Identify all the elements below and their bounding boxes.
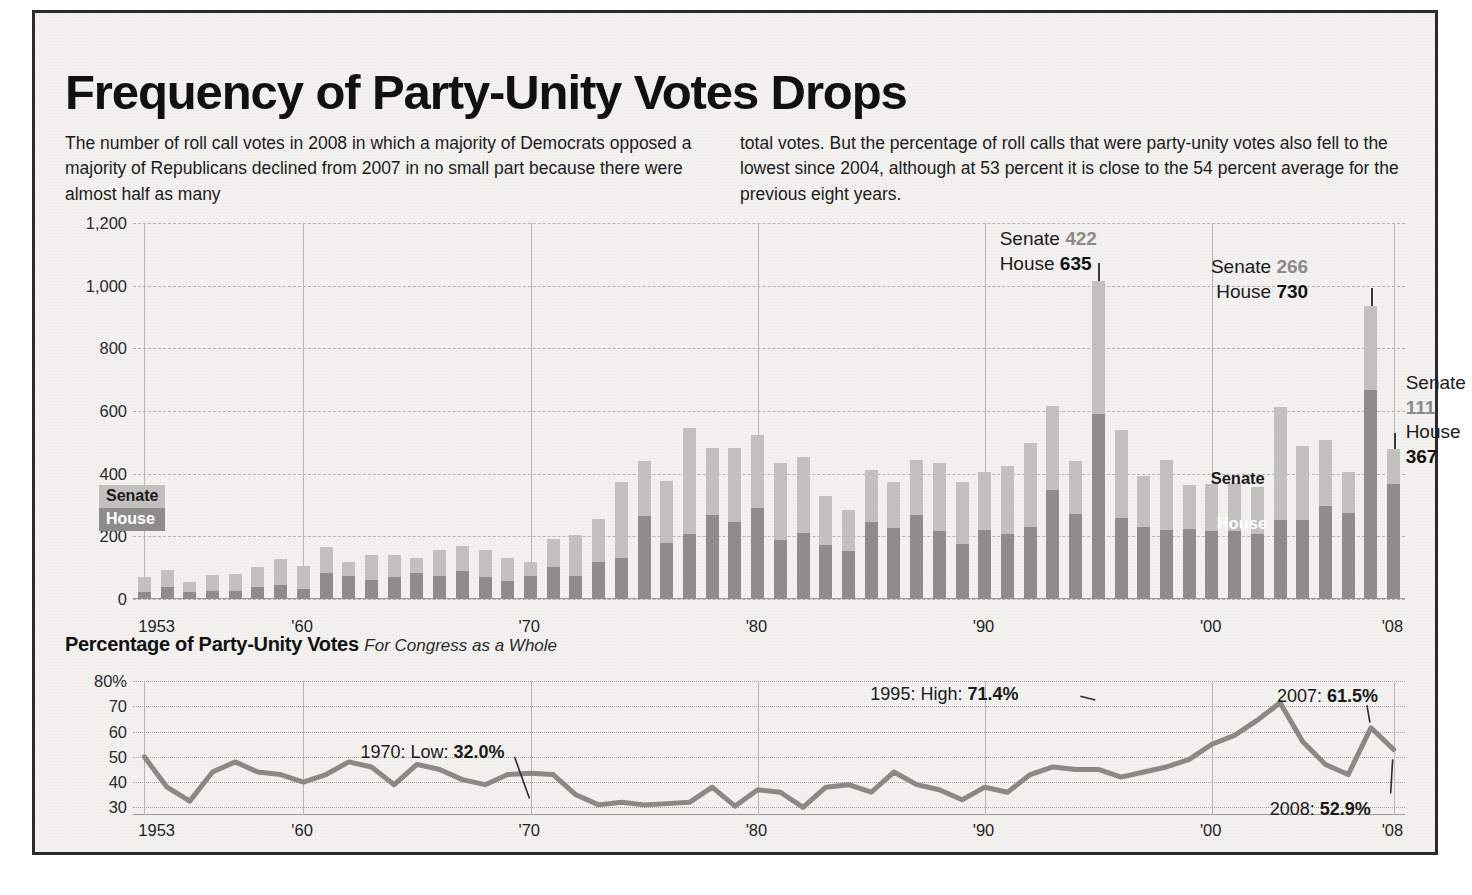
- bar-segment-senate: [479, 550, 492, 577]
- bar-column[interactable]: [501, 558, 514, 599]
- bar-segment-house: [274, 585, 287, 599]
- bar-y-axis-label: 600: [61, 402, 127, 421]
- line-y-axis-label: 60: [61, 723, 127, 742]
- bar-column[interactable]: [161, 570, 174, 599]
- bar-segment-senate: [638, 461, 651, 516]
- bar-segment-house: [865, 522, 878, 599]
- callout-senate-label: Senate: [1406, 371, 1466, 396]
- bar-x-axis-label: '80: [746, 617, 768, 636]
- bar-segment-house: [1296, 520, 1309, 599]
- bar-column[interactable]: [569, 535, 582, 599]
- bar-column[interactable]: [1069, 461, 1082, 599]
- bar-column[interactable]: [320, 547, 333, 599]
- bar-column[interactable]: [1183, 485, 1196, 599]
- bar-segment-senate: [1296, 446, 1309, 520]
- bar-segment-house: [547, 567, 560, 599]
- bar-column[interactable]: [365, 555, 378, 599]
- bar-segment-house: [592, 562, 605, 599]
- bar-segment-house: [887, 528, 900, 599]
- bar-segment-house: [1046, 490, 1059, 599]
- line-x-axis-label: '60: [291, 821, 313, 840]
- legend-swatch-senate: Senate: [99, 485, 165, 508]
- bar-column[interactable]: [183, 582, 196, 599]
- bar-segment-house: [819, 545, 832, 599]
- bar-column[interactable]: [524, 562, 537, 599]
- bar-segment-senate: [388, 555, 401, 578]
- bar-column[interactable]: [1342, 472, 1355, 599]
- bar-column[interactable]: [1274, 407, 1287, 599]
- bar-segment-senate: [1046, 406, 1059, 490]
- page-title: Frequency of Party-Unity Votes Drops: [65, 68, 907, 118]
- bar-segment-senate: [706, 448, 719, 515]
- bar-column[interactable]: [956, 482, 969, 600]
- bar-column[interactable]: [797, 457, 810, 599]
- bar-column[interactable]: [683, 428, 696, 599]
- callout-senate-value: 422: [1065, 228, 1097, 249]
- bar-column[interactable]: [842, 510, 855, 599]
- bar-segment-senate: [206, 575, 219, 591]
- bar-column[interactable]: [251, 567, 264, 599]
- bar-column[interactable]: [388, 555, 401, 599]
- bar-column[interactable]: [1160, 460, 1173, 599]
- callout-house-row: House 635: [1000, 252, 1097, 277]
- bar-column[interactable]: [1115, 430, 1128, 599]
- bar-column[interactable]: [1001, 466, 1014, 599]
- bar-column[interactable]: [887, 482, 900, 600]
- section-subtitle: Percentage of Party-Unity Votes For Cong…: [65, 633, 557, 656]
- bar-column[interactable]: [342, 562, 355, 599]
- bar-column[interactable]: [274, 559, 287, 599]
- bar-column[interactable]: [410, 558, 423, 599]
- bar-column[interactable]: [1364, 306, 1377, 599]
- bar-column[interactable]: [592, 519, 605, 599]
- bar-column[interactable]: [433, 550, 446, 599]
- bar-segment-house: [138, 592, 151, 599]
- bar-column[interactable]: [297, 566, 310, 599]
- bar-column[interactable]: [910, 460, 923, 599]
- bar-segment-house: [1001, 534, 1014, 599]
- callout-leader-line: [1394, 433, 1396, 449]
- bar-column[interactable]: [1251, 487, 1264, 599]
- bar-column[interactable]: [1205, 484, 1218, 599]
- bar-gridline: [133, 599, 1405, 600]
- bar-column[interactable]: [638, 461, 651, 599]
- bar-column[interactable]: [229, 574, 242, 599]
- bar-column[interactable]: [1046, 406, 1059, 599]
- bar-segment-house: [978, 530, 991, 599]
- bar-segment-senate: [1364, 306, 1377, 389]
- bar-column[interactable]: [819, 496, 832, 599]
- annotation-prefix: 1995: High:: [870, 684, 967, 704]
- bar-column[interactable]: [206, 575, 219, 599]
- bar-segment-senate: [456, 546, 469, 570]
- annotation-value: 71.4%: [967, 684, 1018, 704]
- bar-column[interactable]: [933, 463, 946, 599]
- bar-segment-house: [1274, 520, 1287, 599]
- bar-segment-senate: [910, 460, 923, 515]
- bar-column[interactable]: [1024, 443, 1037, 599]
- bar-column[interactable]: [774, 463, 787, 599]
- bar-segment-senate: [1115, 430, 1128, 517]
- bar-column[interactable]: [728, 448, 741, 599]
- bar-segment-senate: [774, 463, 787, 540]
- line-x-axis-label: '90: [973, 821, 995, 840]
- bar-column[interactable]: [138, 577, 151, 599]
- bar-column[interactable]: [1387, 449, 1400, 599]
- bar-column[interactable]: [1137, 476, 1150, 599]
- bar-column[interactable]: [865, 470, 878, 599]
- bar-column[interactable]: [1296, 446, 1309, 599]
- bar-segment-house: [1364, 390, 1377, 599]
- bar-column[interactable]: [1319, 440, 1332, 599]
- bar-column[interactable]: [1092, 281, 1105, 599]
- callout-house-row: House 730: [1211, 280, 1308, 305]
- bar-segment-senate: [410, 558, 423, 573]
- bar-column[interactable]: [751, 435, 764, 599]
- bar-column[interactable]: [615, 482, 628, 599]
- bar-column[interactable]: [706, 448, 719, 599]
- bar-column[interactable]: [1228, 483, 1241, 599]
- bar-column[interactable]: [660, 481, 673, 599]
- bar-segment-senate: [1069, 461, 1082, 514]
- bar-gridline: [133, 348, 1405, 349]
- bar-column[interactable]: [479, 550, 492, 600]
- bar-column[interactable]: [547, 539, 560, 599]
- bar-column[interactable]: [978, 472, 991, 599]
- bar-column[interactable]: [456, 546, 469, 599]
